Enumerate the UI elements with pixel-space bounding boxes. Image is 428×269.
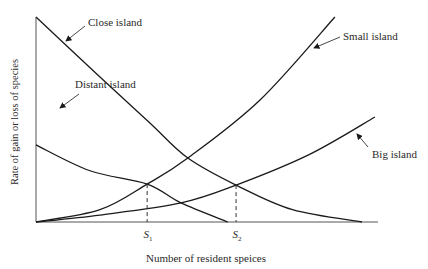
small-island-arrow (314, 37, 340, 48)
s2-subscript: 2 (238, 235, 242, 243)
close-island-arrow (66, 26, 85, 41)
distant-island-label: Distant island (75, 79, 136, 90)
big-island-label: Big island (372, 149, 417, 160)
close-island-curve (36, 17, 362, 222)
small-island-label: Small island (343, 31, 398, 42)
s1-subscript: 1 (149, 235, 153, 243)
s2-tick-label: S2 (233, 228, 242, 243)
y-axis-label: Rate of gain or loss of species (9, 59, 20, 185)
s1-tick-label: S1 (144, 228, 153, 243)
distant-island-arrow (60, 94, 79, 108)
small-island-curve (36, 17, 335, 222)
x-axis-label: Number of resident speices (146, 252, 266, 264)
close-island-label: Close island (88, 17, 142, 28)
big-island-arrow (357, 134, 368, 147)
